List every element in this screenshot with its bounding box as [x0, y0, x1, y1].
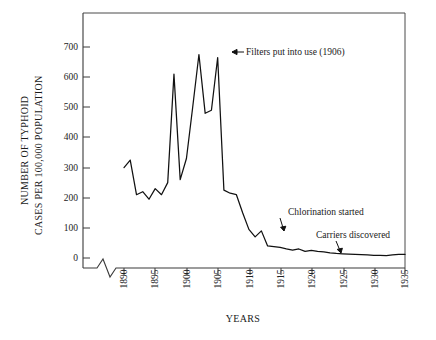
y-tick-label-100: 100 [64, 223, 79, 233]
chlorination-annotation-label: Chlorination started [288, 207, 364, 217]
x-tick-label-1910: 1910 [245, 269, 255, 288]
y-tick-label-300: 300 [64, 163, 79, 173]
x-tick-label-1925: 1925 [339, 269, 349, 288]
y-tick-label-200: 200 [64, 193, 79, 203]
x-tick-label-1890: 1890 [119, 269, 129, 288]
carriers-annotation-label: Carriers discovered [316, 230, 390, 240]
x-tick-label-1895: 1895 [150, 269, 160, 288]
typhoid-cases-chart-figure: 0 100 200 300 400 500 600 700 1890 1895 [0, 0, 436, 340]
y-tick-label-400: 400 [64, 132, 79, 142]
x-tick-label-1915: 1915 [276, 269, 286, 288]
chart-canvas: 0 100 200 300 400 500 600 700 1890 1895 [0, 0, 436, 340]
x-axis-title: YEARS [226, 313, 260, 324]
x-tick-label-1930: 1930 [370, 269, 380, 288]
x-tick-label-1920: 1920 [307, 269, 317, 288]
x-tick-label-1900: 1900 [182, 269, 192, 288]
y-tick-label-0: 0 [73, 253, 78, 263]
y-tick-label-600: 600 [64, 72, 79, 82]
filters-annotation-label: Filters put into use (1906) [246, 47, 345, 58]
x-tick-label-1905: 1905 [213, 269, 223, 288]
y-tick-label-500: 500 [64, 102, 79, 112]
y-axis-title-line2: CASES PER 100,000 POPULATION [33, 75, 44, 235]
y-tick-label-700: 700 [64, 42, 79, 52]
filters-annotation: Filters put into use (1906) [232, 47, 345, 58]
x-tick-label-1935: 1935 [400, 269, 410, 288]
y-axis-title-line1: NUMBER OF TYPHOID [19, 96, 30, 205]
